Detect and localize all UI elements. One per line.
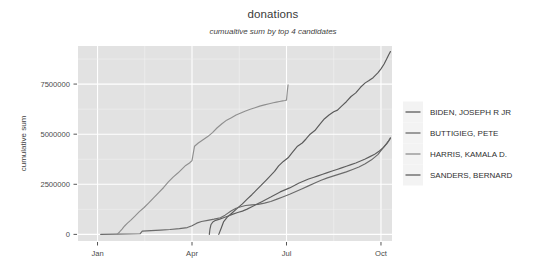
x-tick-label: Oct <box>375 249 388 258</box>
legend-label-3[interactable]: SANDERS, BERNARD <box>430 171 512 180</box>
x-tick-label: Jan <box>91 249 103 258</box>
plot-area: JanAprJulOct 0250000050000007500000 cumu… <box>0 0 546 279</box>
legend-label-2[interactable]: HARRIS, KAMALA D. <box>430 150 507 159</box>
x-axis: JanAprJulOct <box>91 242 387 258</box>
x-tick-label: Jul <box>282 249 292 258</box>
panel-background <box>78 46 392 241</box>
y-tick-label: 7500000 <box>40 80 70 89</box>
legend: BIDEN, JOSEPH R JRBUTTIGIEG, PETEHARRIS,… <box>403 102 512 186</box>
x-tick-label: Apr <box>186 249 198 258</box>
y-tick-label: 5000000 <box>40 130 70 139</box>
y-axis-title: cumulative sum <box>19 115 28 171</box>
legend-label-1[interactable]: BUTTIGIEG, PETE <box>430 129 498 138</box>
y-tick-label: 0 <box>66 230 70 239</box>
chart-figure: donations cumualtive sum by top 4 candid… <box>0 0 546 279</box>
legend-label-0[interactable]: BIDEN, JOSEPH R JR <box>430 108 511 117</box>
panel <box>78 46 392 241</box>
y-tick-label: 2500000 <box>40 180 70 189</box>
y-axis: 0250000050000007500000 <box>40 80 77 239</box>
y-axis-label: cumulative sum <box>19 115 28 171</box>
